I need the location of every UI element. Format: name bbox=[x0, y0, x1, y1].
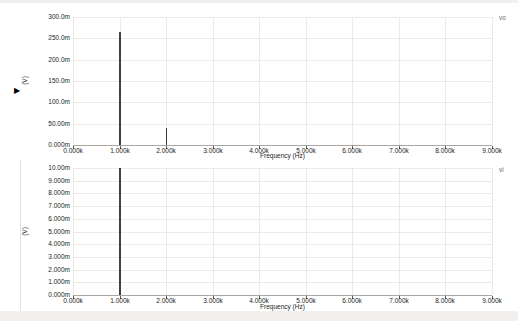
h-gridline bbox=[73, 219, 492, 220]
h-gridline bbox=[73, 206, 492, 207]
y-tick-label: 5.000m bbox=[27, 228, 70, 236]
x-tick-label: 2.000k bbox=[156, 297, 176, 305]
grapher-window: ▶ (V) Frequency (Hz) vo 300.0m250.0m200.… bbox=[0, 0, 518, 321]
h-gridline bbox=[73, 270, 492, 271]
v-gridline bbox=[399, 168, 400, 295]
x-tick-label: 4.000k bbox=[249, 297, 269, 305]
h-gridline bbox=[73, 282, 492, 283]
v-gridline bbox=[492, 168, 493, 295]
plot-canvas-vi[interactable]: 10.00m9.000m8.000m7.000m6.000m5.000m4.00… bbox=[73, 168, 492, 295]
h-gridline bbox=[73, 181, 492, 182]
y-tick-label: 2.000m bbox=[27, 266, 70, 274]
y-tick-label: 7.000m bbox=[27, 202, 70, 210]
spectrum-spike[interactable] bbox=[119, 168, 121, 295]
v-gridline bbox=[445, 168, 446, 295]
y-tick-label: 3.000m bbox=[27, 253, 70, 261]
y-tick-label: 9.000m bbox=[27, 177, 70, 185]
y-tick-label: 4.000m bbox=[27, 240, 70, 248]
spectrum-plot-vi: (V) Frequency (Hz) vi 10.00m9.000m8.000m… bbox=[0, 0, 518, 321]
v-gridline bbox=[259, 168, 260, 295]
h-gridline bbox=[73, 168, 492, 169]
h-gridline bbox=[73, 244, 492, 245]
x-tick-label: 3.000k bbox=[203, 297, 223, 305]
x-axis-line bbox=[73, 295, 492, 296]
h-gridline bbox=[73, 193, 492, 194]
x-tick-label: 1.000k bbox=[110, 297, 130, 305]
v-gridline bbox=[306, 168, 307, 295]
x-tick-label: 0.000k bbox=[63, 297, 83, 305]
x-tick-label: 5.000k bbox=[296, 297, 316, 305]
v-gridline bbox=[213, 168, 214, 295]
x-tick-label: 9.000k bbox=[482, 297, 502, 305]
h-gridline bbox=[73, 257, 492, 258]
v-gridline bbox=[166, 168, 167, 295]
y-tick-label: 8.000m bbox=[27, 189, 70, 197]
y-tick-label: 1.000m bbox=[27, 278, 70, 286]
y-tick-label: 6.000m bbox=[27, 215, 70, 223]
x-tick-label: 7.000k bbox=[389, 297, 409, 305]
h-gridline bbox=[73, 232, 492, 233]
x-tick-label: 6.000k bbox=[342, 297, 362, 305]
y-tick-label: 10.00m bbox=[27, 164, 70, 172]
y-axis-line bbox=[73, 168, 74, 295]
x-tick-label: 8.000k bbox=[435, 297, 455, 305]
v-gridline bbox=[352, 168, 353, 295]
trace-label-vi[interactable]: vi bbox=[499, 166, 504, 173]
